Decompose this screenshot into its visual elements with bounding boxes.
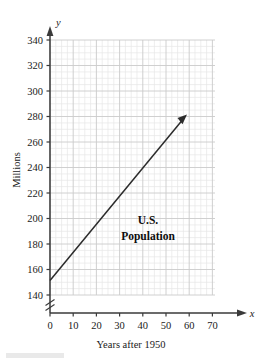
y-axis-title: Millions <box>11 152 22 188</box>
y-tick-label: 320 <box>27 60 43 71</box>
us-population-line-chart: 340 320 300 280 260 240 220 200 180 160 … <box>0 0 268 361</box>
x-tick-label: 30 <box>114 320 125 331</box>
x-tick-label: 60 <box>184 320 195 331</box>
x-axis-title: Years after 1950 <box>97 339 166 350</box>
x-tick-label: 50 <box>161 320 172 331</box>
x-axis-letter: x <box>249 308 255 319</box>
y-tick-label: 140 <box>27 290 43 301</box>
y-tick-label: 160 <box>27 264 43 275</box>
x-tick-label: 0 <box>47 320 52 331</box>
page-artifact-smudge <box>6 353 64 358</box>
y-axis-letter: y <box>55 17 61 28</box>
y-tick-label: 300 <box>27 86 43 97</box>
x-tick-label: 10 <box>68 320 79 331</box>
y-tick-label: 200 <box>27 213 43 224</box>
y-tick-label: 240 <box>27 162 43 173</box>
y-tick-label: 260 <box>27 137 43 148</box>
y-tick-label: 220 <box>27 188 43 199</box>
annotation-line-1: U.S. <box>138 214 159 226</box>
y-tick-label: 340 <box>27 35 43 46</box>
x-tick-label: 70 <box>207 320 218 331</box>
annotation-line-2: Population <box>121 230 175 243</box>
x-tick-label: 40 <box>138 320 149 331</box>
x-tick-label: 20 <box>91 320 102 331</box>
y-tick-label: 180 <box>27 239 43 250</box>
y-tick-label: 280 <box>27 111 43 122</box>
